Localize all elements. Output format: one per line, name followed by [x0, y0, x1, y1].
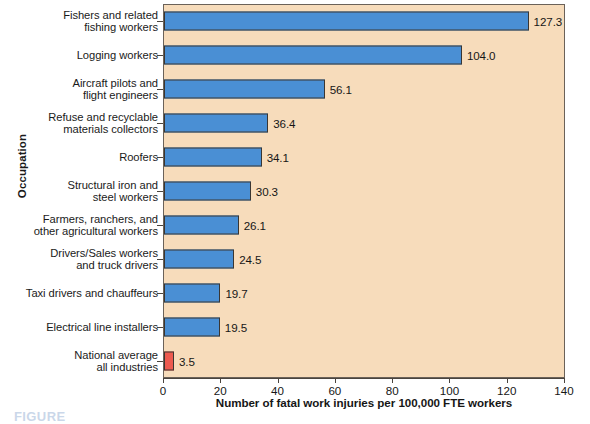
category-label: National averageall industries: [0, 349, 158, 374]
x-axis-title: Number of fatal work injuries per 100,00…: [163, 396, 565, 409]
bar: [164, 216, 239, 235]
bar-value-label: 104.0: [467, 49, 496, 62]
y-axis-tick: [157, 21, 163, 22]
figure-caption: FIGURE: [14, 409, 66, 424]
bar: [164, 250, 234, 269]
bar-container: 26.1: [164, 216, 266, 235]
category-label: Logging workers: [0, 49, 158, 61]
bar-container: 30.3: [164, 182, 278, 201]
bar-container: 56.1: [164, 80, 352, 99]
bar-container: 19.5: [164, 318, 247, 337]
bar: [164, 352, 174, 371]
bar-value-label: 3.5: [179, 355, 195, 368]
bar: [164, 284, 220, 303]
bar-container: 19.7: [164, 284, 248, 303]
bar-value-label: 19.5: [225, 321, 247, 334]
bar: [164, 148, 262, 167]
category-label: Taxi drivers and chauffeurs: [0, 287, 158, 299]
bar: [164, 182, 251, 201]
x-axis-tick-mark: [564, 378, 565, 383]
bar: [164, 46, 462, 65]
bar-row: Farmers, ranchers, andother agricultural…: [0, 208, 590, 242]
bar-value-label: 36.4: [273, 117, 295, 130]
bar-container: 104.0: [164, 46, 495, 65]
x-axis-tick-mark: [220, 378, 221, 383]
category-label: Drivers/Sales workersand truck drivers: [0, 247, 158, 272]
category-label: Aircraft pilots andflight engineers: [0, 77, 158, 102]
category-label: Farmers, ranchers, andother agricultural…: [0, 213, 158, 238]
y-axis-tick: [157, 293, 163, 294]
bar-row: Roofers34.1: [0, 140, 590, 174]
y-axis-tick: [157, 259, 163, 260]
bar-value-label: 24.5: [239, 253, 261, 266]
y-axis-tick: [157, 361, 163, 362]
category-label: Fishers and relatedfishing workers: [0, 9, 158, 34]
bar-row: National averageall industries3.5: [0, 344, 590, 378]
bar-row: Logging workers104.0: [0, 38, 590, 72]
bar-row: Refuse and recyclablematerials collector…: [0, 106, 590, 140]
bar-value-label: 19.7: [225, 287, 247, 300]
bar-row: Aircraft pilots andflight engineers56.1: [0, 72, 590, 106]
y-axis-tick: [157, 191, 163, 192]
y-axis-tick: [157, 157, 163, 158]
bar: [164, 80, 325, 99]
y-axis-tick: [157, 123, 163, 124]
category-label: Structural iron andsteel workers: [0, 179, 158, 204]
bar-row: Drivers/Sales workersand truck drivers24…: [0, 242, 590, 276]
bar-value-label: 34.1: [267, 151, 289, 164]
y-axis-tick: [157, 225, 163, 226]
bar: [164, 318, 220, 337]
x-axis-tick-mark: [392, 378, 393, 383]
y-axis-tick: [157, 55, 163, 56]
category-label: Refuse and recyclablematerials collector…: [0, 111, 158, 136]
category-label: Roofers: [0, 151, 158, 163]
x-axis-tick-mark: [449, 378, 450, 383]
bar-value-label: 127.3: [534, 15, 563, 28]
bar: [164, 114, 268, 133]
bar-row: Structural iron andsteel workers30.3: [0, 174, 590, 208]
x-axis-ticks: 020406080100120140: [0, 378, 590, 398]
bar-value-label: 30.3: [256, 185, 278, 198]
x-axis-tick-mark: [507, 378, 508, 383]
bar-row: Fishers and relatedfishing workers127.3: [0, 4, 590, 38]
bar-row: Electrical line installers19.5: [0, 310, 590, 344]
x-axis-tick-mark: [335, 378, 336, 383]
x-axis-tick-mark: [278, 378, 279, 383]
bar-container: 24.5: [164, 250, 261, 269]
bar-rows: Fishers and relatedfishing workers127.3L…: [0, 4, 590, 378]
bar-container: 34.1: [164, 148, 289, 167]
bar-container: 3.5: [164, 352, 195, 371]
bar-value-label: 26.1: [244, 219, 266, 232]
x-axis-tick-mark: [163, 378, 164, 383]
bar-container: 127.3: [164, 12, 562, 31]
bar: [164, 12, 529, 31]
y-axis-tick: [157, 327, 163, 328]
category-label: Electrical line installers: [0, 321, 158, 333]
y-axis-tick: [157, 89, 163, 90]
bar-value-label: 56.1: [330, 83, 352, 96]
bar-container: 36.4: [164, 114, 295, 133]
bar-row: Taxi drivers and chauffeurs19.7: [0, 276, 590, 310]
